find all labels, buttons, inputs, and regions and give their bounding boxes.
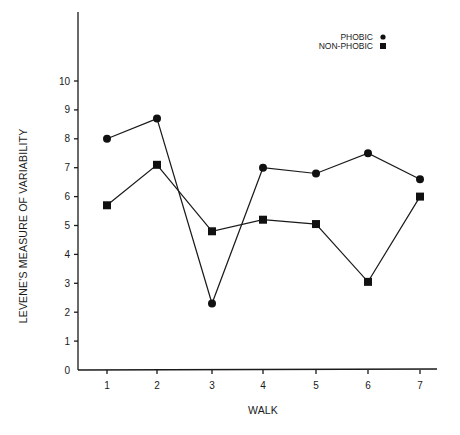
data-point-square-icon [416,193,424,201]
x-tick-label: 6 [365,380,371,391]
data-point-circle-icon [312,169,320,177]
data-point-circle-icon [208,300,216,308]
y-tick-label: 7 [64,162,70,173]
data-point-square-icon [312,220,320,228]
y-tick-label: 2 [64,307,70,318]
data-point-circle-icon [103,135,111,143]
y-tick-label: 10 [59,76,71,87]
x-axis-title: WALK [248,404,278,416]
legend-square-marker-icon [380,43,386,49]
data-point-circle-icon [259,164,267,172]
y-tick-label: 4 [64,249,70,260]
data-point-circle-icon [364,149,372,157]
data-point-square-icon [208,227,216,235]
y-tick-label: 5 [64,220,70,231]
legend: PHOBIC NON-PHOBIC [319,32,386,51]
y-tick-label: 6 [64,191,70,202]
x-axis-line [78,369,437,370]
y-tick-label: 3 [64,278,70,289]
series-non-phobic [103,161,424,286]
x-tick-label: 3 [209,380,215,391]
series-layer [103,115,424,308]
data-point-square-icon [153,161,161,169]
y-tick-label: 8 [64,133,70,144]
x-tick-label: 7 [417,380,423,391]
series-line [107,119,420,304]
x-tick-label: 4 [260,380,266,391]
x-tick-label: 1 [104,380,110,391]
data-point-circle-icon [153,115,161,123]
legend-label-non-phobic: NON-PHOBIC [319,41,373,51]
data-point-square-icon [259,216,267,224]
x-axis: 1234567 [78,369,437,391]
y-axis-title: LEVENE'S MEASURE OF VARIABILITY [17,129,29,324]
y-axis: 012345678910 [59,12,78,376]
x-tick-label: 2 [154,380,160,391]
data-point-square-icon [364,278,372,286]
y-tick-label: 9 [64,104,70,115]
y-tick-label: 1 [64,336,70,347]
data-point-circle-icon [416,175,424,183]
data-point-square-icon [103,201,111,209]
series-phobic [103,115,424,308]
legend-circle-marker-icon [380,34,385,39]
x-tick-label: 5 [313,380,319,391]
y-tick-label: 0 [64,365,70,376]
line-chart: 012345678910 1234567 LEVENE'S MEASURE OF… [0,0,460,435]
